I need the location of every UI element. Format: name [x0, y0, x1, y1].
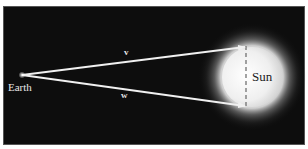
sun-label: Sun: [252, 70, 272, 83]
earth-label: Earth: [8, 82, 32, 93]
vector-v-label: v: [124, 48, 129, 57]
vector-w-label: w: [121, 91, 128, 100]
earth-point: [19, 72, 26, 79]
